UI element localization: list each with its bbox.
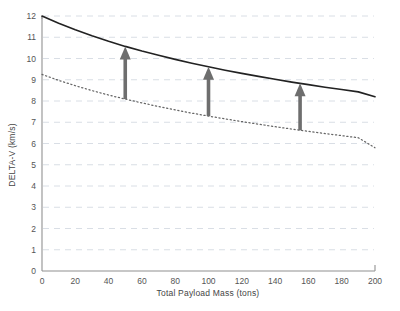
ytick-label-2: 2 [31, 224, 36, 234]
xtick-label-120: 120 [235, 276, 249, 286]
xtick-label-160: 160 [301, 276, 315, 286]
ytick-label-4: 4 [31, 181, 36, 191]
chart-canvas: 020406080100120140160180200 012345678910… [0, 0, 400, 311]
ytick-label-8: 8 [31, 96, 36, 106]
x-axis-title: Total Payload Mass (tons) [157, 288, 260, 298]
ytick-label-0: 0 [31, 266, 36, 276]
xtick-label-40: 40 [104, 276, 114, 286]
y-axis-title: DELTA-V (km/s) [7, 123, 17, 186]
xtick-label-100: 100 [201, 276, 215, 286]
xtick-label-20: 20 [71, 276, 81, 286]
ytick-label-9: 9 [31, 75, 36, 85]
ytick-label-7: 7 [31, 117, 36, 127]
xtick-label-180: 180 [335, 276, 349, 286]
ytick-label-6: 6 [31, 139, 36, 149]
ytick-label-12: 12 [27, 11, 37, 21]
xtick-label-0: 0 [40, 276, 45, 286]
xtick-label-80: 80 [170, 276, 180, 286]
xtick-label-140: 140 [268, 276, 282, 286]
x-tick-labels: 020406080100120140160180200 [40, 276, 383, 286]
ytick-label-1: 1 [31, 245, 36, 255]
y-tick-labels: 0123456789101112 [27, 11, 37, 276]
delta-v-chart: 020406080100120140160180200 012345678910… [0, 0, 400, 311]
ytick-label-10: 10 [27, 54, 37, 64]
ytick-label-3: 3 [31, 202, 36, 212]
ytick-label-11: 11 [27, 32, 36, 42]
ytick-label-5: 5 [31, 160, 36, 170]
xtick-label-200: 200 [368, 276, 382, 286]
xtick-label-60: 60 [137, 276, 147, 286]
